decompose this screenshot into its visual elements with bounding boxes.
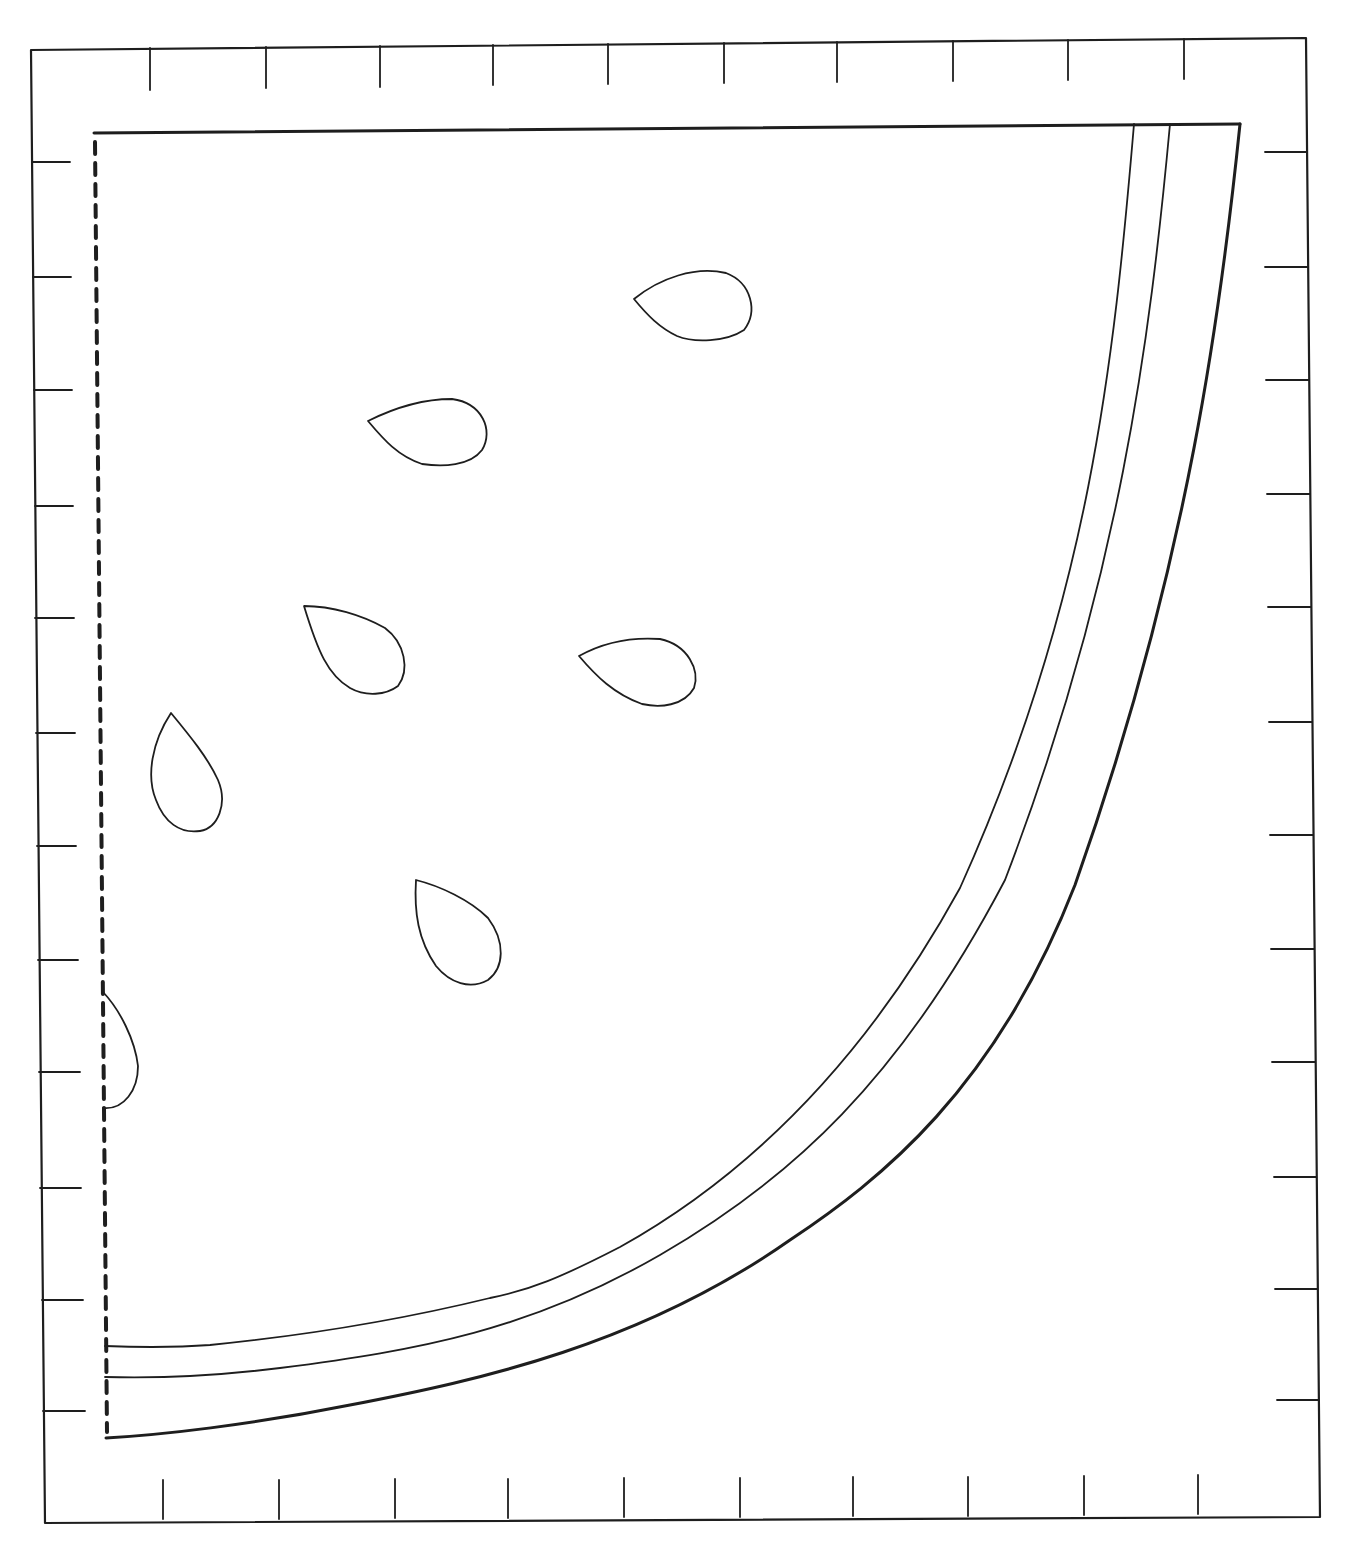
watermelon-pattern-sheet — [0, 0, 1350, 1549]
seed-4 — [579, 639, 696, 706]
seed-2 — [368, 399, 487, 465]
seed-3 — [304, 606, 404, 694]
left-ruler-ticks — [33, 162, 85, 1411]
seed-1 — [634, 271, 751, 340]
slice-top-edge — [94, 124, 1240, 133]
seeds-group — [103, 271, 751, 1108]
inner-rind-line — [105, 124, 1134, 1347]
seed-5 — [151, 713, 222, 831]
fold-line-dashed — [95, 142, 107, 1432]
middle-rind-line — [105, 124, 1170, 1377]
frame-outline — [31, 38, 1320, 1523]
outer-rind-line — [106, 124, 1240, 1438]
ruler-frame — [31, 38, 1320, 1523]
bottom-ruler-ticks — [163, 1475, 1198, 1519]
seed-7 — [103, 992, 138, 1108]
watermelon-slice — [94, 124, 1240, 1438]
seed-6 — [416, 880, 501, 985]
right-ruler-ticks — [1265, 152, 1318, 1400]
